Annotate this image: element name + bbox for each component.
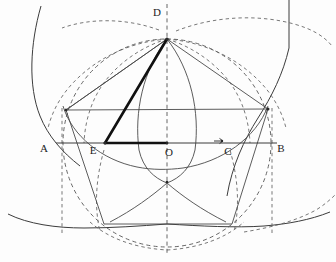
solid-arc-right-large: [227, 48, 289, 196]
vesica-arc-right: [167, 39, 196, 183]
chord-repeat-left: [66, 39, 167, 110]
pentagon-edge-D-upperright: [167, 39, 268, 109]
point-marker-upper-right: [267, 108, 270, 111]
pentagon-edge-upperright-lowerright: [232, 109, 268, 224]
construction-canvas: A E O C B D: [0, 0, 336, 262]
point-marker-D: [165, 37, 168, 40]
solid-arc-below-left: [110, 183, 167, 222]
solid-arc-bottom-left: [8, 214, 167, 228]
point-marker-C: [221, 140, 223, 142]
solid-arc-bottom-right: [167, 212, 330, 227]
chord-upperleft-upperright: [66, 109, 268, 110]
bold-segment-ED: [105, 39, 167, 143]
vesica-arc-left: [138, 39, 167, 183]
dashed-arc-from-D-inner-right: [167, 39, 250, 143]
label-A: A: [40, 142, 48, 154]
point-marker-vesica-bottom: [166, 181, 169, 184]
dashed-arc-top-right: [176, 18, 332, 46]
dashed-arc-top-left: [62, 21, 159, 30]
point-marker-O: [166, 142, 168, 144]
point-marker-E: [104, 142, 107, 145]
label-O: O: [165, 146, 173, 158]
label-B: B: [277, 142, 284, 154]
geometric-construction-figure: A E O C B D: [0, 0, 336, 262]
label-E: E: [90, 144, 97, 156]
solid-arc-below-right: [167, 183, 226, 222]
dashed-arc-from-D-inner-left: [84, 39, 167, 143]
point-marker-upper-left: [65, 109, 68, 112]
pentagon-edge-upperleft-lowerleft: [66, 110, 104, 224]
label-D: D: [153, 6, 161, 18]
dashed-arc-from-D-right: [167, 39, 286, 128]
label-C: C: [224, 145, 231, 157]
